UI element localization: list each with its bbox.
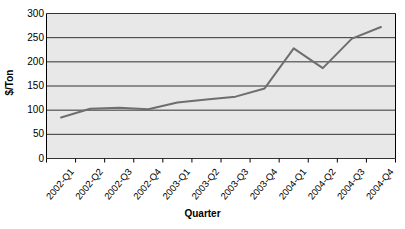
x-axis-tick-marks — [47, 159, 396, 163]
x-axis-title: Quarter — [0, 208, 405, 219]
plot-area — [0, 0, 405, 229]
line-chart: $/Ton 050100150200250300 2002-Q12002-Q22… — [0, 0, 405, 229]
